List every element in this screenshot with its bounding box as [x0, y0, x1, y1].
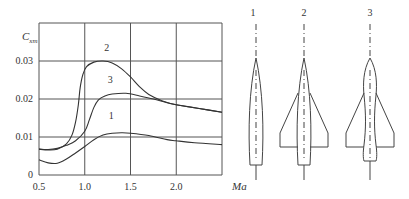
curve-label-1: 1 [109, 110, 114, 121]
right-wing [376, 93, 394, 147]
x-tick-label: 1.0 [79, 181, 92, 192]
planform-label-1: 1 [251, 7, 256, 18]
planform-3-area-ruled: 3 [346, 7, 394, 180]
left-wing [346, 93, 364, 147]
planform-1-body-alone: 1 [249, 7, 263, 180]
curve-labels: 231 [104, 42, 114, 121]
y-axis-label: Cxm [22, 30, 38, 45]
left-wing [280, 93, 298, 147]
figure: 0.51.01.52.000.010.020.03 Cxm Ma 231 1 2… [0, 0, 409, 199]
x-tick-label: 1.5 [124, 181, 137, 192]
y-tick-label: 0.01 [16, 131, 34, 142]
curve-label-3: 3 [108, 74, 113, 85]
y-tick-label: 0.03 [16, 55, 34, 66]
x-axis-label: Ma [231, 180, 247, 192]
x-tick-label: 0.5 [33, 181, 46, 192]
chart-ticks: 0.51.01.52.000.010.020.03 [16, 55, 183, 192]
chart-grid [39, 23, 222, 175]
planform-diagrams: 1 2 3 [249, 7, 394, 180]
drag-coefficient-chart: 0.51.01.52.000.010.020.03 Cxm Ma 231 [16, 23, 248, 192]
planform-label-3: 3 [368, 7, 373, 18]
planform-2-body-wing: 2 [280, 7, 328, 180]
curve-label-2: 2 [104, 42, 109, 53]
right-wing [310, 93, 328, 147]
planform-label-2: 2 [302, 7, 307, 18]
y-tick-label: 0 [28, 169, 33, 180]
y-tick-label: 0.02 [16, 93, 34, 104]
x-tick-label: 2.0 [170, 181, 183, 192]
